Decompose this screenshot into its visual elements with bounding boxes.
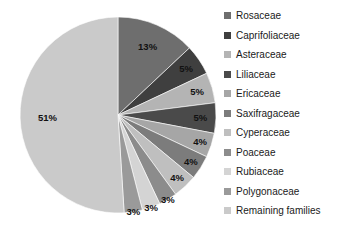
pie-plot-area: 13%5%5%5%4%4%4%3%3%3%51% — [0, 0, 225, 231]
legend-item-label: Caprifoliaceae — [236, 26, 300, 46]
legend-item[interactable]: Polygonaceae — [224, 182, 347, 202]
legend-swatch-icon — [224, 12, 231, 19]
legend-item[interactable]: Liliaceae — [224, 65, 347, 85]
legend-swatch-icon — [224, 168, 231, 175]
pie-data-label: 4% — [170, 172, 184, 183]
legend-item-label: Saxifragaceae — [236, 104, 300, 124]
pie-svg: 13%5%5%5%4%4%4%3%3%3%51% — [0, 0, 225, 231]
legend-swatch-icon — [224, 188, 231, 195]
legend-item[interactable]: Ericaceae — [224, 84, 347, 104]
legend-swatch-icon — [224, 207, 231, 214]
pie-data-label: 3% — [126, 206, 140, 217]
legend-swatch-icon — [224, 110, 231, 117]
legend-swatch-icon — [224, 90, 231, 97]
legend-swatch-icon — [224, 149, 231, 156]
legend-item-label: Ericaceae — [236, 84, 280, 104]
legend-swatch-icon — [224, 32, 231, 39]
legend-item-label: Cyperaceae — [236, 123, 290, 143]
pie-data-label: 4% — [193, 136, 207, 147]
legend-item[interactable]: Poaceae — [224, 143, 347, 163]
legend-item-label: Rubiaceae — [236, 162, 284, 182]
legend-item[interactable]: Cyperaceae — [224, 123, 347, 143]
legend-item[interactable]: Asteraceae — [224, 45, 347, 65]
legend-item-label: Remaining families — [236, 201, 320, 221]
pie-chart-figure: 13%5%5%5%4%4%4%3%3%3%51% RosaceaeCaprifo… — [0, 0, 347, 231]
legend-item[interactable]: Rubiaceae — [224, 162, 347, 182]
legend-item[interactable]: Saxifragaceae — [224, 104, 347, 124]
legend-item-label: Asteraceae — [236, 45, 287, 65]
legend-swatch-icon — [224, 71, 231, 78]
legend-item[interactable]: Remaining families — [224, 201, 347, 221]
pie-data-label: 3% — [161, 194, 175, 205]
legend-item[interactable]: Caprifoliaceae — [224, 26, 347, 46]
pie-data-label: 3% — [144, 202, 158, 213]
legend-item-label: Polygonaceae — [236, 182, 299, 202]
legend-item-label: Liliaceae — [236, 65, 275, 85]
pie-slice[interactable] — [20, 17, 124, 213]
legend-item[interactable]: Rosaceae — [224, 6, 347, 26]
pie-data-label: 5% — [190, 86, 204, 97]
legend-swatch-icon — [224, 129, 231, 136]
pie-data-label: 5% — [193, 112, 207, 123]
legend-swatch-icon — [224, 51, 231, 58]
pie-data-label: 51% — [38, 112, 58, 123]
pie-data-label: 13% — [138, 41, 158, 52]
pie-data-label: 5% — [179, 63, 193, 74]
pie-data-label: 4% — [184, 156, 198, 167]
legend-item-label: Poaceae — [236, 143, 275, 163]
chart-legend: RosaceaeCaprifoliaceaeAsteraceaeLiliacea… — [224, 6, 347, 226]
legend-item-label: Rosaceae — [236, 6, 281, 26]
